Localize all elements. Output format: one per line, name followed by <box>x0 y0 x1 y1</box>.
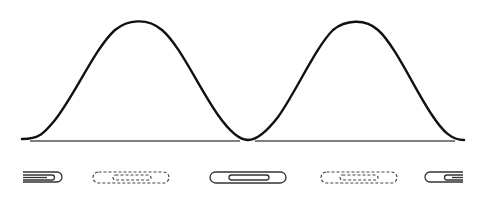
wave-crest-2 <box>248 22 464 140</box>
paperclip-icon-solid-partial-right <box>23 172 62 182</box>
wave-crest-1 <box>22 21 248 140</box>
paperclip-icon-solid-partial-left <box>425 172 463 182</box>
paperclip-icon-solid <box>210 172 286 183</box>
paperclip-icon-dashed-2 <box>321 172 397 183</box>
paperclip-icon-dashed <box>93 172 169 183</box>
wave-diagram <box>0 0 490 204</box>
